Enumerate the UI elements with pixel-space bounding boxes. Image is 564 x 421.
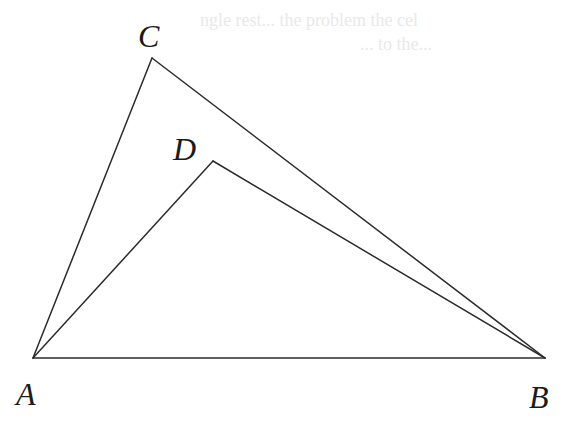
segment-ad	[33, 161, 213, 358]
triangle-diagram: ngle rest... the problem the cel ... to …	[0, 0, 564, 421]
bleed-through-text-2: ... to the...	[360, 34, 432, 54]
segment-cb	[152, 58, 545, 358]
segments-group	[33, 58, 545, 358]
bleed-through-text-1: ngle rest... the problem the cel	[200, 10, 418, 30]
vertex-label-d: D	[172, 131, 196, 167]
segment-db	[213, 161, 545, 358]
vertex-label-b: B	[529, 379, 549, 415]
segment-ac	[33, 58, 152, 358]
vertex-label-c: C	[138, 18, 160, 54]
vertex-label-a: A	[14, 376, 36, 412]
